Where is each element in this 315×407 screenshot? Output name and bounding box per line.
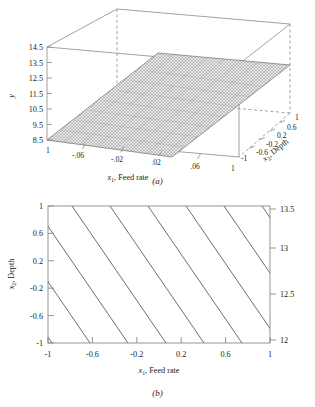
contour-level-label: 12	[280, 336, 288, 345]
z-tick-label: 13.5	[29, 59, 43, 68]
panel-b-caption: (b)	[0, 388, 315, 398]
z-axis-title: y	[7, 94, 16, 99]
contour-x-axis-title: x1, Feed rate	[138, 366, 180, 376]
z-tick-label: 8.5	[33, 136, 43, 145]
contour-level-label: 13	[280, 244, 288, 253]
contour-y-axis: 1 0.6 0.2 -0.2 -0.6 -1 x2, Depth	[7, 202, 54, 348]
z-axis: 14.5 13.5 12.5 11.5 10.5 9.5 8.5 y	[7, 43, 52, 145]
z-tick-label: 11.5	[29, 90, 43, 99]
contour-y-axis-title: x2, Depth	[7, 259, 17, 291]
contour-y-tick-label: 0.2	[33, 257, 43, 266]
contour-y-tick-label: -1	[36, 339, 43, 348]
z-tick-label: 12.5	[29, 74, 43, 83]
z-tick-label: 9.5	[33, 121, 43, 130]
contour-x-tick-label: -0.6	[86, 350, 99, 359]
contour-y-tick-label: 0.6	[33, 229, 43, 238]
response-surface	[47, 53, 290, 157]
z-tick-label: 14.5	[29, 43, 43, 52]
x1-tick-label: -.06	[72, 151, 84, 160]
panel-a-surface-plot: 14.5 13.5 12.5 11.5 10.5 9.5 8.5 y -.06 …	[0, 0, 315, 196]
x2-corner-far-label: 1	[295, 113, 299, 122]
x1-corner-near-label: 1	[46, 146, 50, 155]
x2-corner-near-label: -1	[241, 154, 248, 163]
contour-level-label: 12.5	[280, 290, 294, 299]
x1-tick-label: .06	[190, 162, 200, 171]
contour-x-tick-label: -1	[45, 350, 52, 359]
x1-tick-label: -.02	[111, 155, 123, 164]
contour-y-tick-label: -0.2	[30, 284, 43, 293]
x1-corner-far-label: 1	[231, 164, 235, 173]
contour-x-tick-label: 0.2	[176, 350, 186, 359]
contour-x-tick-label: -0.2	[130, 350, 143, 359]
z-tick-label: 10.5	[29, 105, 43, 114]
x2-axis: -0.6 -0.2 0.2 0.6 -1 1 x2, Depth	[241, 113, 299, 165]
x1-tick-label: .02	[151, 158, 161, 167]
x2-tick-label: 0.6	[287, 123, 297, 132]
contour-x-tick-label: 0.6	[220, 350, 230, 359]
panel-a-caption: (a)	[0, 176, 315, 186]
contour-level-ticks	[270, 209, 276, 340]
surface-plot-svg: 14.5 13.5 12.5 11.5 10.5 9.5 8.5 y -.06 …	[0, 0, 315, 196]
contour-y-tick-label: -0.6	[30, 312, 43, 321]
contour-x-tick-label: 1	[268, 350, 272, 359]
contour-level-label: 13.5	[280, 205, 294, 214]
contour-y-tick-label: 1	[39, 202, 43, 211]
figure-root: 14.5 13.5 12.5 11.5 10.5 9.5 8.5 y -.06 …	[0, 0, 315, 407]
contour-plot-svg: 13.5 13 12.5 12 1 0.6 0.2 -0.2 -0.6	[0, 188, 315, 407]
panel-b-contour-plot: 13.5 13 12.5 12 1 0.6 0.2 -0.2 -0.6	[0, 188, 315, 407]
